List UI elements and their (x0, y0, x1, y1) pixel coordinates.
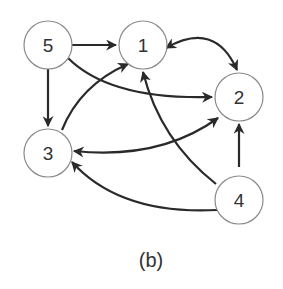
node-3: 3 (24, 129, 72, 177)
svg-text:2: 2 (234, 87, 245, 108)
figure-caption: (b) (139, 249, 163, 271)
node-5: 5 (24, 21, 72, 69)
edge-1-2 (166, 38, 237, 70)
node-4: 4 (215, 176, 263, 224)
svg-text:5: 5 (43, 35, 54, 56)
graph-diagram: 5 1 2 3 4 (b) (0, 0, 283, 289)
edge-3-2 (74, 118, 218, 153)
svg-text:1: 1 (138, 35, 149, 56)
edge-4-1 (143, 72, 216, 184)
svg-text:3: 3 (43, 143, 54, 164)
node-1: 1 (119, 21, 167, 69)
svg-text:4: 4 (234, 190, 245, 211)
node-2: 2 (215, 73, 263, 121)
edge-3-1 (62, 64, 128, 130)
edge-4-3 (72, 162, 217, 210)
